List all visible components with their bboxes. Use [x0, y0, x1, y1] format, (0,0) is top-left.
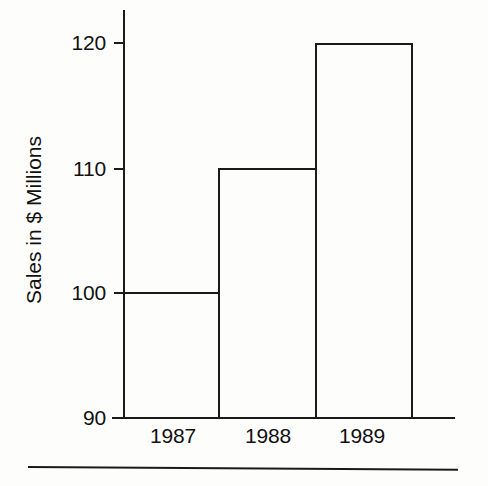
y-tick-label-110: 110	[54, 157, 106, 181]
x-tick-label-1988: 1988	[223, 424, 313, 448]
bar-1989	[315, 43, 413, 419]
y-tick-label-90: 90	[54, 406, 106, 430]
y-tick-mark-120	[114, 42, 124, 44]
y-tick-label-110-wrap: 110	[54, 157, 106, 181]
x-tick-label-1989: 1989	[317, 424, 407, 448]
bar-1988	[218, 168, 317, 419]
bar-1987	[123, 292, 220, 419]
y-tick-label-100: 100	[54, 281, 106, 305]
y-tick-mark-110	[114, 168, 124, 170]
y-tick-label-120-wrap: 120	[54, 31, 106, 55]
bar-chart-figure: 120 110 100 90 1987 1988 1989 Sales in $…	[0, 0, 488, 486]
x-tick-label-1987: 1987	[128, 424, 218, 448]
y-axis-title: Sales in $ Millions	[22, 113, 46, 328]
y-tick-label-120: 120	[54, 31, 106, 55]
y-tick-label-90-wrap: 90	[54, 406, 106, 430]
bottom-divider-rule	[28, 466, 458, 471]
y-tick-label-100-wrap: 100	[54, 281, 106, 305]
